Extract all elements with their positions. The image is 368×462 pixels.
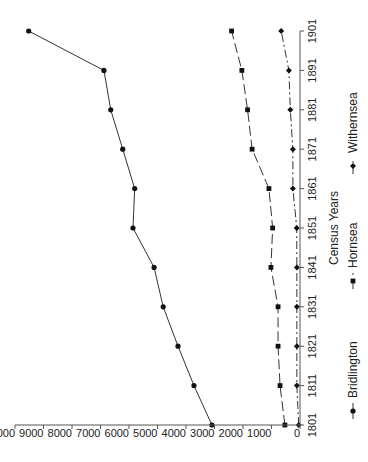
data-point-marker (278, 383, 283, 388)
data-point-marker (250, 147, 255, 152)
series-bridlington (26, 28, 214, 427)
y-tick-label: 3000 (190, 427, 214, 439)
legend-item-bridlington: Bridlington (346, 341, 360, 419)
x-tick-label: 1871 (306, 137, 318, 161)
y-tick-label: 9000 (19, 427, 43, 439)
data-point-marker (130, 225, 135, 230)
y-tick-label: 10000 (0, 427, 15, 439)
y-tick-label: 5000 (133, 427, 157, 439)
legend-label: Hornsea (346, 222, 360, 268)
data-point-marker (286, 67, 292, 73)
legend-marker (350, 163, 356, 169)
x-tick-label: 1841 (306, 255, 318, 279)
x-tick-label: 1861 (306, 176, 318, 200)
x-tick-label: 1881 (306, 98, 318, 122)
x-tick-label: 1811 (306, 374, 318, 398)
data-point-marker (229, 29, 234, 34)
data-point-marker (278, 28, 284, 34)
data-point-marker (294, 225, 300, 231)
legend-label: Withernsea (346, 92, 360, 153)
data-point-marker (26, 28, 31, 33)
data-point-marker (294, 383, 300, 389)
y-tick-label: 4000 (162, 427, 186, 439)
data-point-marker (276, 344, 281, 349)
x-tick-label: 1801 (306, 413, 318, 437)
legend-item-hornsea: Hornsea (346, 222, 360, 289)
series-hornsea (229, 29, 287, 428)
data-point-marker (269, 265, 274, 270)
x-tick-label: 1821 (306, 334, 318, 358)
series-withernsea (278, 28, 302, 428)
data-point-marker (294, 343, 300, 349)
x-axis: 1801181118211831184118511861187118811891… (300, 19, 318, 437)
data-point-marker (294, 264, 300, 270)
y-tick-label: 7000 (76, 427, 100, 439)
data-point-marker (270, 226, 275, 231)
y-tick-label: 8000 (48, 427, 72, 439)
plot-area (26, 28, 302, 428)
legend-marker (350, 408, 355, 413)
data-point-marker (151, 265, 156, 270)
data-point-marker (161, 304, 166, 309)
data-point-marker (290, 186, 296, 192)
legend-marker (351, 279, 356, 284)
y-tick-label: 1000 (247, 427, 271, 439)
data-point-marker (287, 107, 293, 113)
x-tick-label: 1891 (306, 58, 318, 82)
x-axis-title: Census Years (327, 191, 341, 265)
data-point-marker (294, 304, 300, 310)
data-point-marker (276, 304, 281, 309)
data-point-marker (132, 186, 137, 191)
data-point-marker (239, 68, 244, 73)
data-point-marker (120, 147, 125, 152)
data-point-marker (175, 344, 180, 349)
data-point-marker (101, 68, 106, 73)
y-tick-label: 6000 (105, 427, 129, 439)
x-tick-label: 1831 (306, 295, 318, 319)
data-point-marker (108, 107, 113, 112)
data-point-marker (245, 107, 250, 112)
legend-label: Bridlington (346, 341, 360, 398)
y-axis: 0100020003000400050006000700080009000100… (0, 425, 300, 439)
y-tick-label: 2000 (219, 427, 243, 439)
data-point-marker (267, 186, 272, 191)
data-point-marker (191, 383, 196, 388)
legend: BridlingtonHornseaWithernsea (346, 92, 360, 419)
x-tick-label: 1851 (306, 216, 318, 240)
population-line-chart: 1801181118211831184118511861187118811891… (0, 0, 368, 462)
data-point-marker (290, 146, 296, 152)
legend-item-withernsea: Withernsea (346, 92, 360, 174)
x-tick-label: 1901 (306, 19, 318, 43)
y-tick-label: 0 (294, 427, 300, 439)
